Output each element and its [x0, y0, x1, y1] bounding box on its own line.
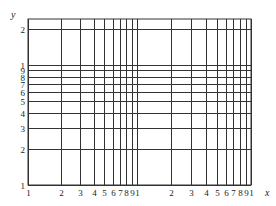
x-tick-label: 4 [92, 188, 97, 198]
y-tick-label: 1 [21, 61, 26, 71]
x-tick-label: 5 [102, 188, 107, 198]
x-tick-label: 2 [59, 188, 64, 198]
x-tick-label: 1 [135, 188, 140, 198]
y-axis-label: y [10, 9, 16, 20]
x-tick-label: 8 [124, 188, 129, 198]
y-tick-label: 4 [21, 109, 26, 119]
x-tick-label: 6 [224, 188, 229, 198]
y-tick-label: 5 [21, 97, 26, 107]
x-tick-label: 7 [231, 188, 236, 198]
x-tick-label: 8 [238, 188, 243, 198]
x-tick-label: 1 [249, 188, 254, 198]
x-axis-label: x [264, 187, 270, 198]
x-tick-label: 3 [78, 188, 83, 198]
y-tick-label: 3 [21, 124, 26, 134]
log-log-graph-paper: 1234567891234567891 12345678912 x y [0, 0, 276, 206]
y-tick-label: 2 [21, 145, 26, 155]
x-tick-labels: 1234567891234567891 [26, 188, 254, 198]
y-tick-labels: 12345678912 [21, 25, 26, 191]
x-tick-label: 6 [111, 188, 116, 198]
x-tick-label: 5 [215, 188, 220, 198]
x-tick-label: 1 [26, 188, 31, 198]
y-tick-label: 2 [21, 25, 26, 35]
x-tick-label: 3 [189, 188, 194, 198]
x-tick-label: 7 [118, 188, 123, 198]
x-tick-label: 4 [204, 188, 209, 198]
x-tick-label: 2 [169, 188, 174, 198]
y-tick-label: 1 [21, 181, 26, 191]
